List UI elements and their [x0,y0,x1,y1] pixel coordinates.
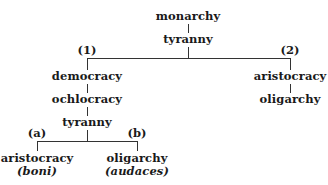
node-oligarchy: oligarchy [260,94,321,106]
connector-b-oligarchy [137,141,138,151]
node-democracy: democracy [52,71,122,83]
sub-branch-marker-b: (b) [128,128,147,140]
connector-tyranny-subsplit [87,130,88,141]
sub-branch-split-line [37,141,138,142]
node-aristocracy: aristocracy [254,71,327,83]
note-audaces: (audaces) [105,166,169,178]
branch-marker-2: (2) [281,45,300,57]
connector-a-aristocracy [37,141,38,151]
node-oligarchy-audaces: oligarchy [107,153,168,165]
node-tyranny-lower: tyranny [62,117,112,129]
node-monarchy: monarchy [156,11,221,23]
connector-tyranny-split [188,47,189,58]
sub-branch-marker-a: (a) [28,128,46,140]
node-aristocracy-boni: aristocracy [1,153,74,165]
note-boni: (boni) [17,166,57,178]
branch-marker-1: (1) [78,45,97,57]
node-tyranny-root: tyranny [163,34,213,46]
branch-split-line [87,58,291,59]
node-ochlocracy: ochlocracy [52,94,122,106]
